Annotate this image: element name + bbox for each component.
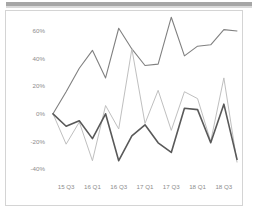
x-axis-tick-label: 18 Q3 [215,183,232,190]
y-axis-tick-label: -40% [31,165,46,172]
y-axis-tick-labels: 60%40%20%0%-20%-40% [31,27,46,172]
y-axis-tick-label: 20% [33,82,46,89]
chart-series-series-1 [53,17,237,114]
x-axis-tick-label: 16 Q3 [110,183,127,190]
top-decoration-band-shadow [6,6,252,8]
chart-series-series-3 [53,104,237,161]
x-axis-tick-label: 17 Q3 [163,183,180,190]
y-axis-tick-label: 60% [33,27,46,34]
x-axis-tick-label: 15 Q3 [58,183,75,190]
x-axis-tick-label: 18 Q1 [189,183,206,190]
x-axis-tick-label: 17 Q1 [137,183,154,190]
chart-card: 60%40%20%0%-20%-40% 15 Q316 Q116 Q317 Q1… [5,10,243,206]
y-axis-tick-label: 0% [36,110,45,117]
chart-series-group [53,17,237,162]
chart-screenshot: 60%40%20%0%-20%-40% 15 Q316 Q116 Q317 Q1… [0,0,257,212]
y-axis-tick-label: 40% [33,55,46,62]
y-axis-tick-label: -20% [31,138,46,145]
x-axis-tick-labels: 15 Q316 Q116 Q317 Q117 Q318 Q118 Q3 [58,183,233,190]
line-chart: 60%40%20%0%-20%-40% 15 Q316 Q116 Q317 Q1… [6,11,244,207]
x-axis-tick-label: 16 Q1 [84,183,101,190]
